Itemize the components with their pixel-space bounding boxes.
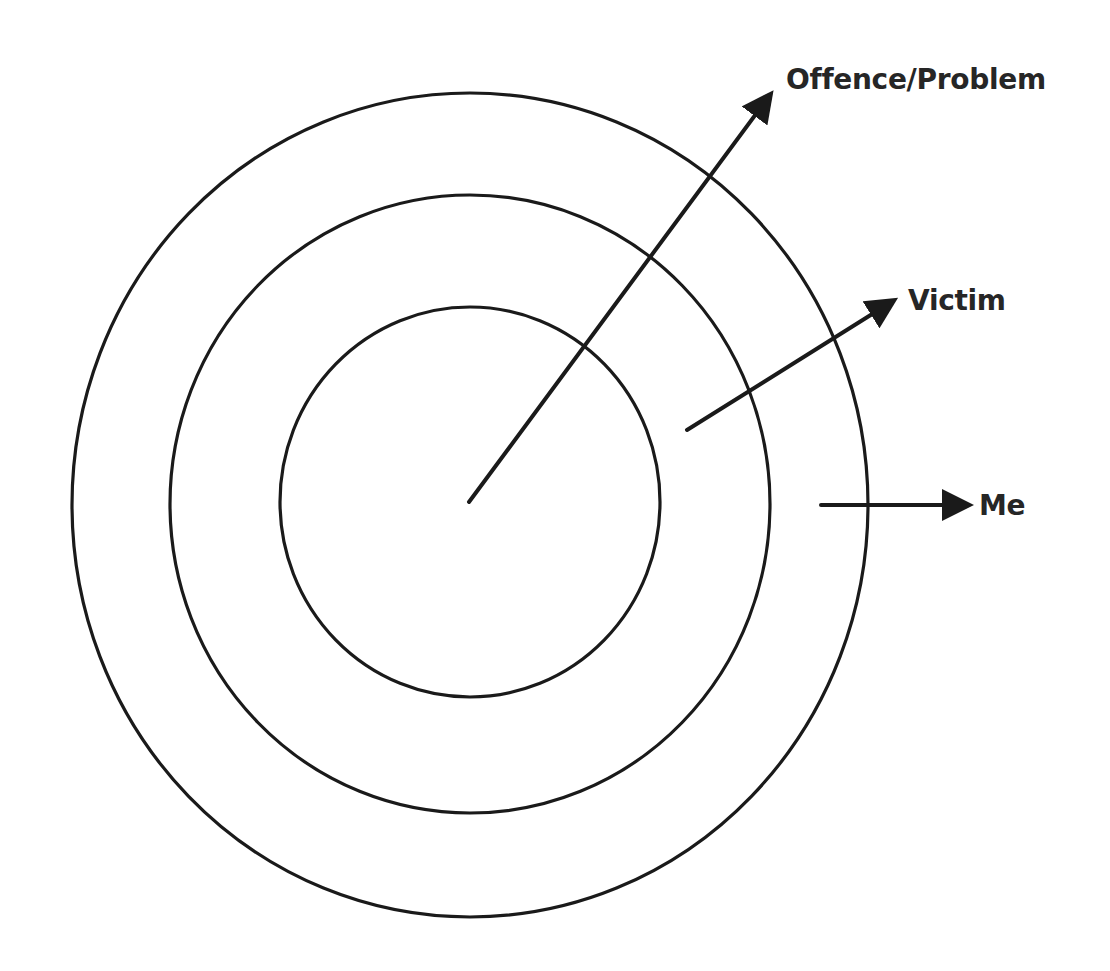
offence-problem-arrow-icon <box>469 95 770 502</box>
victim-label: Victim <box>908 287 1006 315</box>
victim-arrow-icon <box>687 301 893 430</box>
me-label: Me <box>979 492 1025 520</box>
offence-problem-label: Offence/Problem <box>786 66 1046 94</box>
outer-circle <box>72 93 868 917</box>
concentric-circles-diagram <box>0 0 1110 971</box>
middle-circle <box>170 195 770 813</box>
